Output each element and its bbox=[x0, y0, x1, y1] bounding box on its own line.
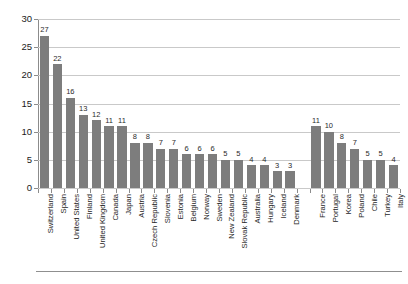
x-axis-label: Denmark bbox=[293, 194, 301, 225]
bar-slot[interactable]: 10 bbox=[322, 19, 335, 188]
bar-slot[interactable]: 11 bbox=[310, 19, 323, 188]
bar-slot[interactable]: 7 bbox=[167, 19, 180, 188]
bar-value-label: 7 bbox=[172, 139, 176, 147]
bar[interactable] bbox=[130, 143, 139, 188]
x-tick-mark bbox=[77, 189, 78, 193]
bar[interactable] bbox=[143, 143, 152, 188]
x-tick-mark bbox=[361, 189, 362, 193]
x-axis-label: Korea bbox=[345, 194, 353, 214]
bar-slot[interactable]: 6 bbox=[193, 19, 206, 188]
bar-slot[interactable]: 5 bbox=[361, 19, 374, 188]
bar-slot[interactable]: 8 bbox=[141, 19, 154, 188]
x-axis-label: Slovak Republic bbox=[241, 194, 249, 248]
bar-slot[interactable]: 4 bbox=[258, 19, 271, 188]
x-axis-label: Czech Republic bbox=[151, 194, 159, 247]
x-axis-label: Austria bbox=[138, 194, 146, 218]
bar[interactable] bbox=[92, 120, 101, 188]
bar-value-label: 11 bbox=[118, 117, 126, 125]
y-tick-label: 30 bbox=[2, 13, 32, 24]
bar[interactable] bbox=[363, 160, 372, 188]
bar-slot[interactable]: 13 bbox=[77, 19, 90, 188]
bar-slot[interactable]: 16 bbox=[64, 19, 77, 188]
x-tick-mark bbox=[374, 189, 375, 193]
x-axis-label: New Zealand bbox=[228, 194, 236, 239]
bar-value-label: 4 bbox=[391, 156, 395, 164]
bar[interactable] bbox=[324, 132, 333, 188]
bars-group: 272216131211118877666554433111087554 bbox=[38, 19, 400, 188]
bar-slot[interactable]: 7 bbox=[154, 19, 167, 188]
bar-value-label: 3 bbox=[288, 162, 292, 170]
bar[interactable] bbox=[182, 154, 191, 188]
x-tick-mark bbox=[38, 189, 39, 193]
bar[interactable] bbox=[350, 149, 359, 188]
bar-slot[interactable]: 7 bbox=[348, 19, 361, 188]
bar-slot[interactable]: 11 bbox=[116, 19, 129, 188]
x-tick-mark bbox=[258, 189, 259, 193]
x-tick-mark bbox=[348, 189, 349, 193]
bar-value-label: 6 bbox=[198, 145, 202, 153]
bar[interactable] bbox=[260, 165, 269, 188]
x-axis-label: Chile bbox=[371, 194, 379, 211]
bar[interactable] bbox=[53, 64, 62, 188]
bar[interactable] bbox=[234, 160, 243, 188]
bar-slot[interactable]: 6 bbox=[180, 19, 193, 188]
bar[interactable] bbox=[221, 160, 230, 188]
bottom-rule bbox=[36, 271, 402, 272]
bar[interactable] bbox=[247, 165, 256, 188]
bar-slot[interactable]: 27 bbox=[38, 19, 51, 188]
x-axis-label: Portugal bbox=[332, 194, 340, 222]
x-tick-mark bbox=[180, 189, 181, 193]
bar-slot[interactable]: 3 bbox=[284, 19, 297, 188]
bar-value-label: 6 bbox=[185, 145, 189, 153]
bar[interactable] bbox=[156, 149, 165, 188]
x-axis-label: Spain bbox=[60, 194, 68, 213]
x-tick-mark bbox=[219, 189, 220, 193]
bar-value-label: 5 bbox=[379, 150, 383, 158]
x-tick-mark bbox=[90, 189, 91, 193]
bar[interactable] bbox=[40, 36, 49, 188]
bar[interactable] bbox=[208, 154, 217, 188]
bar[interactable] bbox=[337, 143, 346, 188]
bar[interactable] bbox=[169, 149, 178, 188]
bar[interactable] bbox=[79, 115, 88, 188]
bar-value-label: 11 bbox=[105, 117, 113, 125]
bar-value-label: 8 bbox=[133, 133, 137, 141]
x-axis-label: Norway bbox=[203, 194, 211, 220]
bar[interactable] bbox=[117, 126, 126, 188]
y-tick-label: 20 bbox=[2, 69, 32, 80]
plot-area: 051015202530 272216131211118877666554433… bbox=[38, 19, 400, 188]
x-axis-label: Hungary bbox=[267, 194, 275, 223]
bar-value-label: 8 bbox=[146, 133, 150, 141]
bar-slot[interactable]: 12 bbox=[90, 19, 103, 188]
bar-slot[interactable]: 8 bbox=[129, 19, 142, 188]
x-tick-mark bbox=[310, 189, 311, 193]
bar-slot[interactable]: 5 bbox=[232, 19, 245, 188]
bar[interactable] bbox=[195, 154, 204, 188]
bar-slot[interactable]: 5 bbox=[374, 19, 387, 188]
bar[interactable] bbox=[389, 165, 398, 188]
bar-slot[interactable]: 3 bbox=[271, 19, 284, 188]
bar-value-label: 7 bbox=[353, 139, 357, 147]
x-tick-mark bbox=[103, 189, 104, 193]
bar-slot[interactable]: 5 bbox=[219, 19, 232, 188]
x-tick-mark bbox=[271, 189, 272, 193]
bar-slot[interactable]: 22 bbox=[51, 19, 64, 188]
bar-slot[interactable]: 8 bbox=[335, 19, 348, 188]
bar[interactable] bbox=[104, 126, 113, 188]
x-tick-mark bbox=[322, 189, 323, 193]
bar-slot[interactable]: 11 bbox=[103, 19, 116, 188]
bar[interactable] bbox=[311, 126, 320, 188]
x-axis-label: Turkey bbox=[384, 194, 392, 217]
bar[interactable] bbox=[66, 98, 75, 188]
bar[interactable] bbox=[376, 160, 385, 188]
x-axis-label: Italy bbox=[397, 194, 405, 208]
bar[interactable] bbox=[285, 171, 294, 188]
bar-slot[interactable]: 6 bbox=[206, 19, 219, 188]
x-axis-label: Australia bbox=[254, 194, 262, 224]
x-tick-mark bbox=[167, 189, 168, 193]
bar-slot[interactable]: 4 bbox=[245, 19, 258, 188]
x-axis-label: Canada bbox=[112, 194, 120, 221]
x-tick-mark bbox=[154, 189, 155, 193]
bar-slot[interactable]: 4 bbox=[387, 19, 400, 188]
bar[interactable] bbox=[273, 171, 282, 188]
